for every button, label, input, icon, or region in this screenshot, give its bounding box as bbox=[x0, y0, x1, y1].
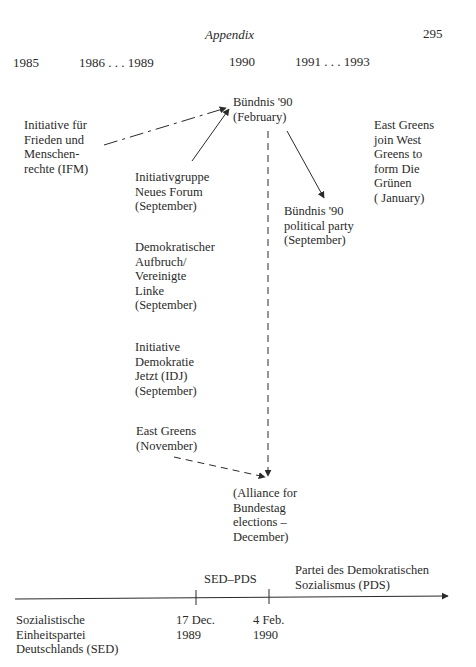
arrow-buendnis-to-party bbox=[287, 131, 324, 198]
arrow-neues-forum-to-buendnis bbox=[192, 109, 229, 161]
diagram-connectors bbox=[0, 0, 476, 667]
arrow-east-greens-to-alliance bbox=[174, 457, 265, 477]
timeline-axis bbox=[15, 596, 448, 599]
